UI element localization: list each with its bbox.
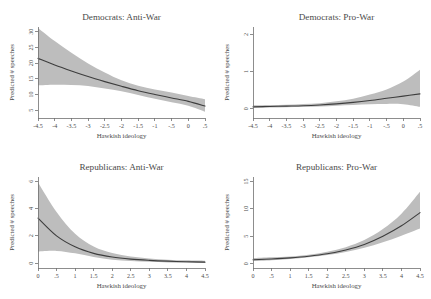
x-axis-tick-label: -3.5 xyxy=(67,123,77,129)
y-axis-tick-label: 5 xyxy=(243,235,249,238)
x-axis-tick-label: 4 xyxy=(400,273,403,279)
x-axis-tick-label: -4.5 xyxy=(248,123,258,129)
plot-svg: Republicans: Pro-War0.511.522.533.544.50… xyxy=(215,150,430,299)
y-axis-title: Predicted # speeches xyxy=(8,44,15,101)
x-axis-tick-label: -1.5 xyxy=(348,123,358,129)
x-axis-tick-label: 3 xyxy=(148,273,151,279)
x-axis-tick-label: 2 xyxy=(111,273,114,279)
x-axis-tick-label: 0 xyxy=(402,123,405,129)
x-axis-tick-label: -.5 xyxy=(383,123,390,129)
y-axis-tick-label: 1 xyxy=(243,70,249,73)
x-axis-tick-label: -1.5 xyxy=(133,123,143,129)
x-axis-tick-label: -2.5 xyxy=(100,123,110,129)
x-axis-tick-label: 1.5 xyxy=(305,273,313,279)
chart-panel-democrats-pro-war: Democrats: Pro-War-4.5-4-3.5-3-2.5-2-1.5… xyxy=(215,0,430,149)
x-axis-tick-label: 0 xyxy=(36,273,39,279)
y-axis-title: Predicted # speeches xyxy=(223,194,230,251)
x-axis-tick-label: 4 xyxy=(185,273,188,279)
confidence-interval-band xyxy=(253,70,420,108)
y-axis-tick-label: 30 xyxy=(28,29,34,35)
x-axis-tick-label: .5 xyxy=(54,273,59,279)
x-axis-tick-label: 4.5 xyxy=(416,273,424,279)
x-axis-title: Hawkish ideology xyxy=(312,132,362,139)
y-axis-tick-label: 4 xyxy=(28,207,34,210)
confidence-interval-band xyxy=(38,182,205,262)
x-axis-tick-label: 0 xyxy=(251,273,254,279)
y-axis-tick-label: 6 xyxy=(28,180,34,183)
x-axis-tick-label: -1 xyxy=(367,123,372,129)
plot-svg: Republicans: Anti-War0.511.522.533.544.5… xyxy=(0,150,215,299)
x-axis-tick-label: -.5 xyxy=(168,123,175,129)
chart-panel-republicans-pro-war: Republicans: Pro-War0.511.522.533.544.50… xyxy=(215,150,430,299)
x-axis-tick-label: -2.5 xyxy=(315,123,325,129)
y-axis-tick-label: 2 xyxy=(243,33,249,36)
y-axis-title: Predicted # speeches xyxy=(8,194,15,251)
x-axis-tick-label: -4.5 xyxy=(33,123,43,129)
x-axis-tick-label: 2.5 xyxy=(342,273,350,279)
panel-title: Democrats: Anti-War xyxy=(82,12,161,22)
confidence-interval-band xyxy=(253,192,420,261)
x-axis-tick-label: -1 xyxy=(152,123,157,129)
plot-svg: Democrats: Anti-War-4.5-4-3.5-3-2.5-2-1.… xyxy=(0,0,215,149)
x-axis-tick-label: -2 xyxy=(119,123,124,129)
y-axis-tick-label: 10 xyxy=(243,206,249,212)
y-axis-tick-label: 15 xyxy=(28,76,34,82)
x-axis-tick-label: 2.5 xyxy=(127,273,135,279)
x-axis-tick-label: .5 xyxy=(203,123,208,129)
x-axis-tick-label: -4 xyxy=(52,123,57,129)
x-axis-tick-label: 2 xyxy=(326,273,329,279)
x-axis-tick-label: -2 xyxy=(334,123,339,129)
y-axis-tick-label: 2 xyxy=(28,234,34,237)
y-axis-tick-label: 10 xyxy=(28,91,34,97)
y-axis-title: Predicted # speeches xyxy=(223,44,230,101)
x-axis-tick-label: -3.5 xyxy=(282,123,292,129)
y-axis-tick-label: 0 xyxy=(243,107,249,110)
x-axis-tick-label: 1.5 xyxy=(90,273,98,279)
y-axis-tick-label: 0 xyxy=(28,262,34,265)
panel-title: Republicans: Anti-War xyxy=(79,162,163,172)
chart-panel-democrats-anti-war: Democrats: Anti-War-4.5-4-3.5-3-2.5-2-1.… xyxy=(0,0,215,149)
y-axis-tick-label: 15 xyxy=(243,178,249,184)
figure-panel-grid: Democrats: Anti-War-4.5-4-3.5-3-2.5-2-1.… xyxy=(0,0,431,299)
x-axis-tick-label: -4 xyxy=(267,123,272,129)
x-axis-tick-label: .5 xyxy=(418,123,423,129)
x-axis-title: Hawkish ideology xyxy=(97,132,147,139)
x-axis-tick-label: 4.5 xyxy=(201,273,209,279)
plot-svg: Democrats: Pro-War-4.5-4-3.5-3-2.5-2-1.5… xyxy=(215,0,430,149)
panel-title: Democrats: Pro-War xyxy=(299,12,375,22)
x-axis-tick-label: 1 xyxy=(289,273,292,279)
x-axis-tick-label: 0 xyxy=(187,123,190,129)
panel-title: Republicans: Pro-War xyxy=(296,162,377,172)
x-axis-title: Hawkish ideology xyxy=(312,282,362,289)
y-axis-tick-label: 5 xyxy=(28,109,34,112)
x-axis-tick-label: 3.5 xyxy=(164,273,172,279)
y-axis-tick-label: 20 xyxy=(28,60,34,66)
y-axis-tick-label: 25 xyxy=(28,44,34,50)
x-axis-tick-label: -3 xyxy=(86,123,91,129)
x-axis-tick-label: 1 xyxy=(74,273,77,279)
x-axis-tick-label: -3 xyxy=(301,123,306,129)
x-axis-tick-label: 3.5 xyxy=(379,273,387,279)
x-axis-tick-label: 3 xyxy=(363,273,366,279)
chart-panel-republicans-anti-war: Republicans: Anti-War0.511.522.533.544.5… xyxy=(0,150,215,299)
x-axis-title: Hawkish ideology xyxy=(97,282,147,289)
x-axis-tick-label: .5 xyxy=(269,273,274,279)
y-axis-tick-label: 0 xyxy=(243,262,249,265)
